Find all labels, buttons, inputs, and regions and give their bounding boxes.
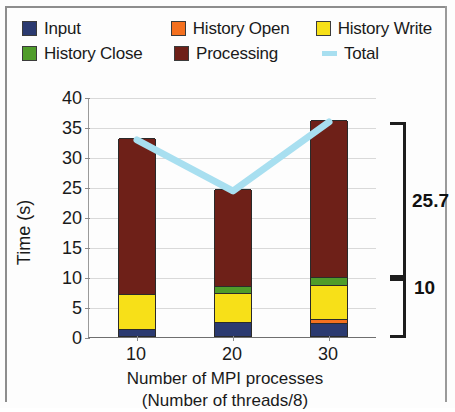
legend-item-input: Input — [22, 19, 171, 39]
plot-region: Time (s) 0510152025303540 102030 Number … — [0, 72, 455, 408]
legend-label-history-open: History Open — [193, 19, 290, 39]
bracket-upper-label: 25.7 — [412, 190, 449, 212]
y-axis-tick-label: 5 — [72, 298, 82, 319]
y-axis-tick — [85, 338, 90, 339]
x-axis-tick-label: 10 — [126, 344, 146, 365]
legend-label-processing: Processing — [196, 44, 278, 64]
x-axis-title: Number of MPI processes (Number of threa… — [60, 368, 390, 412]
plot-area — [88, 98, 376, 338]
history-write-color-swatch — [316, 21, 331, 36]
y-axis-tick-label: 35 — [62, 118, 82, 139]
y-axis-tick-labels: 0510152025303540 — [40, 72, 82, 332]
legend-row-1: Input History Open History Write — [22, 16, 432, 41]
y-axis-tick-label: 20 — [62, 208, 82, 229]
y-axis-tick-label: 15 — [62, 238, 82, 259]
y-axis-tick-label: 10 — [62, 268, 82, 289]
total-polyline — [137, 122, 329, 191]
legend-item-history-write: History Write — [316, 19, 432, 39]
history-close-color-swatch — [22, 46, 37, 61]
y-axis-tick-label: 40 — [62, 88, 82, 109]
total-line-series — [89, 98, 377, 338]
x-axis-title-line-2: (Number of threads/8) — [60, 390, 390, 412]
input-color-swatch — [22, 21, 37, 36]
x-axis-tick-labels: 102030 — [88, 344, 376, 370]
legend-item-total: Total — [322, 44, 379, 64]
x-axis-tick-label: 20 — [222, 344, 242, 365]
x-axis-tick-label: 30 — [318, 344, 338, 365]
bracket-upper — [390, 122, 406, 278]
legend-item-processing: Processing — [174, 44, 322, 64]
legend-label-total: Total — [344, 44, 379, 64]
legend-item-history-close: History Close — [22, 44, 174, 64]
bracket-lower-label: 10 — [414, 277, 435, 299]
y-axis-tick-label: 30 — [62, 148, 82, 169]
total-color-swatch — [322, 51, 337, 56]
legend-item-history-open: History Open — [171, 19, 316, 39]
scan-border-top — [5, 6, 447, 8]
legend-label-history-write: History Write — [338, 19, 432, 39]
x-axis-title-line-1: Number of MPI processes — [60, 368, 390, 390]
history-open-color-swatch — [171, 21, 186, 36]
legend-row-2: History Close Processing Total — [22, 41, 432, 66]
processing-color-swatch — [174, 46, 189, 61]
chart-legend: Input History Open History Write History… — [22, 16, 432, 66]
y-axis-tick-label: 25 — [62, 178, 82, 199]
y-axis-tick-label: 0 — [72, 328, 82, 349]
y-axis-title: Time (s) — [14, 173, 35, 293]
legend-label-history-close: History Close — [44, 44, 142, 64]
legend-label-input: Input — [44, 19, 81, 39]
bracket-lower — [390, 278, 406, 338]
